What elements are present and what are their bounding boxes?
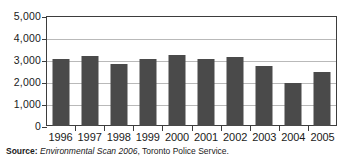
y-tick-label: 4,000 — [14, 33, 41, 44]
y-tick-label: 3,000 — [14, 55, 41, 66]
bar-slot — [104, 16, 133, 126]
y-tick-label: 2,000 — [14, 77, 41, 88]
x-tick-label: 1999 — [136, 130, 160, 145]
bar-slot — [250, 16, 279, 126]
bar-slot — [46, 16, 75, 126]
x-tick-label: 2005 — [310, 130, 334, 145]
source-publisher: , Toronto Police Service. — [137, 146, 229, 156]
bar — [81, 56, 98, 126]
bar — [285, 83, 302, 126]
x-tick-label: 2003 — [252, 130, 276, 145]
bar-slot — [133, 16, 162, 126]
x-tick-label: 1998 — [107, 130, 131, 145]
bar-slot — [279, 16, 308, 126]
y-tick-label: 5,000 — [14, 11, 41, 22]
x-tick-label: 1996 — [49, 130, 73, 145]
x-tick-label: 2002 — [223, 130, 247, 145]
x-tick-label: 1997 — [78, 130, 102, 145]
x-tick-label: 2000 — [165, 130, 189, 145]
bar-slot — [221, 16, 250, 126]
source-note: Source: Environmental Scan 2006, Toronto… — [6, 146, 229, 157]
x-tick-label: 2001 — [194, 130, 218, 145]
bar — [198, 59, 215, 126]
bar-slot — [192, 16, 221, 126]
bar — [139, 59, 156, 126]
bar-chart-figure: 01,0002,0003,0004,0005,000 1996199719981… — [0, 0, 347, 161]
bars-layer — [46, 16, 337, 126]
bar-slot — [75, 16, 104, 126]
y-tick-label: 1,000 — [14, 99, 41, 110]
x-tick-label: 2004 — [281, 130, 305, 145]
x-axis: 1996199719981999200020012002200320042005 — [46, 130, 337, 146]
bar — [314, 72, 331, 126]
bar — [52, 59, 69, 126]
bar — [168, 55, 185, 127]
bar — [256, 66, 273, 126]
bar — [110, 64, 127, 126]
bar-slot — [308, 16, 337, 126]
y-tick-label: 0 — [35, 121, 41, 132]
bar-slot — [162, 16, 191, 126]
source-title: Environmental Scan 2006 — [40, 146, 137, 156]
y-axis: 01,0002,0003,0004,0005,000 — [0, 16, 41, 126]
source-label: Source: — [6, 146, 38, 156]
bar — [227, 57, 244, 126]
